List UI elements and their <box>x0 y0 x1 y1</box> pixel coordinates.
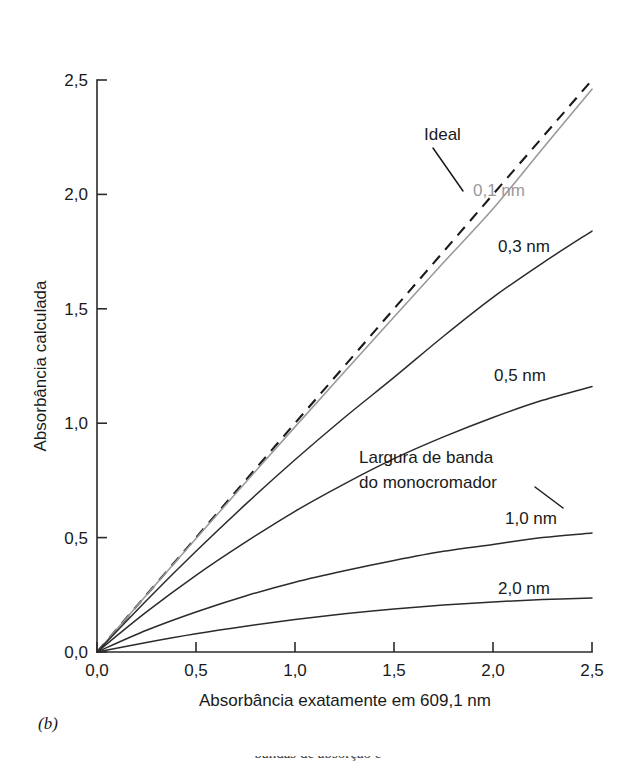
x-tick-label: 1,0 <box>283 661 307 680</box>
x-tick-label: 2,0 <box>481 661 505 680</box>
x-axis-ticks <box>97 642 592 652</box>
series-label-2-0-nm: 2,0 nm <box>498 579 550 598</box>
y-tick-label: 0,5 <box>64 529 88 548</box>
y-tick-label: 1,5 <box>64 300 88 319</box>
x-axis-title: Absorbância exatamente em 609,1 nm <box>199 691 491 710</box>
cut-off-body-text-value: bandas de absorção e <box>254 756 381 762</box>
series-line-2-0-nm <box>97 598 592 652</box>
ideal-leader-line <box>433 148 463 191</box>
x-tick-label: 0,5 <box>184 661 208 680</box>
y-axis-title: Absorbância calculada <box>31 280 50 452</box>
bandwidth-annotation-line-1: Largura de banda <box>359 448 494 467</box>
series-label-1-0-nm: 1,0 nm <box>505 509 557 528</box>
figure-panel-b: 0,0 0,5 1,0 1,5 2,0 2,5 0,0 0,5 1,0 1,5 … <box>0 0 636 770</box>
bandwidth-annotation-line-2: do monocromador <box>359 473 497 492</box>
x-tick-label: 0,0 <box>85 661 109 680</box>
y-tick-label: 2,0 <box>64 185 88 204</box>
y-axis-ticks <box>97 80 107 652</box>
bandwidth-annotation: Largura de banda do monocromador <box>359 448 497 492</box>
y-tick-label: 2,5 <box>64 71 88 90</box>
y-tick-label: 1,0 <box>64 414 88 433</box>
series-label-0-5-nm: 0,5 nm <box>494 366 546 385</box>
cut-off-body-text: bandas de absorção e <box>0 756 636 770</box>
x-tick-label: 2,5 <box>580 661 604 680</box>
absorbance-line-chart: 0,0 0,5 1,0 1,5 2,0 2,5 0,0 0,5 1,0 1,5 … <box>0 0 636 770</box>
series-label-0-1-nm: 0,1 nm <box>473 181 525 200</box>
x-axis-tick-labels: 0,0 0,5 1,0 1,5 2,0 2,5 <box>85 661 604 680</box>
series-inline-labels: Ideal 0,1 nm 0,3 nm 0,5 nm 1,0 nm 2,0 nm <box>424 125 557 598</box>
x-tick-label: 1,5 <box>382 661 406 680</box>
y-tick-label: 0,0 <box>64 643 88 662</box>
y-axis-tick-labels: 0,0 0,5 1,0 1,5 2,0 2,5 <box>64 71 88 662</box>
series-label-ideal: Ideal <box>424 125 461 144</box>
panel-caption: (b) <box>38 714 58 734</box>
bandwidth-leader-line <box>535 487 563 508</box>
series-label-0-3-nm: 0,3 nm <box>498 237 550 256</box>
